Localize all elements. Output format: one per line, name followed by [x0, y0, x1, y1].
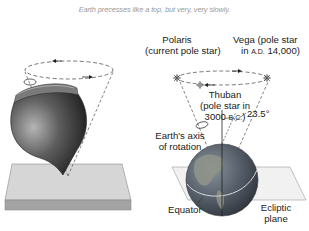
ecliptic-label: Ecliptic plane	[254, 202, 298, 224]
thuban-label: Thuban (pole star in 3000 B.C.)	[196, 89, 254, 123]
tilt-angle-label: 23.5°	[247, 108, 270, 119]
pole-circle	[177, 71, 267, 85]
equator-label: Equator	[168, 204, 202, 215]
precession-circle	[25, 61, 113, 79]
axis-label: Earth's axis of rotation	[150, 130, 210, 152]
vega-label: Vega (pole star in A.D. 14,000)	[233, 34, 300, 57]
polaris-desc: (current pole star)	[145, 45, 209, 56]
thuban-date: 3000 B.C.)	[196, 111, 254, 123]
spinning-top-illustration	[5, 61, 131, 210]
spinning-top	[11, 89, 87, 175]
ecliptic-line1: Ecliptic	[254, 202, 298, 213]
vega-desc: in A.D. 14,000)	[233, 45, 300, 57]
vega-name: Vega (pole star	[233, 34, 300, 45]
polaris-label: Polaris (current pole star)	[145, 34, 209, 56]
axis-line2: of rotation	[150, 141, 210, 152]
ecliptic-line2: plane	[254, 213, 298, 224]
polaris-name: Polaris	[145, 34, 209, 45]
table-surface	[5, 164, 131, 200]
thuban-desc: (pole star in	[196, 100, 254, 111]
thuban-name: Thuban	[196, 89, 254, 100]
axis-line1: Earth's axis	[150, 130, 210, 141]
